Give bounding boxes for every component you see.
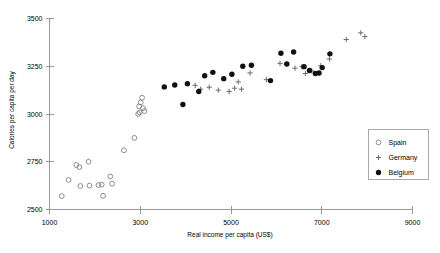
x-tick-label-7000: 7000	[314, 219, 330, 226]
point-belgium-13	[284, 61, 289, 66]
legend-label-germany: Germany	[389, 154, 418, 162]
series-germany	[193, 30, 368, 94]
point-spain-6	[87, 183, 92, 188]
legend-label-spain: Spain	[389, 139, 407, 147]
point-belgium-10	[249, 63, 254, 68]
point-spain-11	[110, 181, 115, 186]
x-tick-label-9000: 9000	[405, 219, 421, 226]
point-spain-18	[140, 95, 145, 100]
y-tick-label-2500: 2500	[27, 206, 43, 213]
x-tick-label-1000: 1000	[42, 219, 58, 226]
series-spain	[59, 95, 146, 198]
point-germany-7	[239, 87, 244, 92]
point-belgium-6	[210, 70, 215, 75]
point-spain-13	[132, 135, 137, 140]
point-belgium-9	[240, 64, 245, 69]
point-belgium-11	[268, 78, 273, 83]
point-belgium-14	[291, 49, 296, 54]
point-germany-10	[277, 61, 282, 66]
y-tick-labels: 25002750300032503500	[27, 15, 43, 213]
y-tick-label-3500: 3500	[27, 15, 43, 22]
point-spain-0	[59, 194, 64, 199]
legend-label-belgium: Belgium	[389, 169, 414, 177]
point-belgium-5	[202, 73, 207, 78]
point-belgium-18	[316, 70, 321, 75]
point-germany-12	[292, 66, 297, 71]
point-belgium-19	[320, 65, 325, 70]
point-germany-3	[216, 88, 221, 93]
y-tick-label-2750: 2750	[27, 158, 43, 165]
point-germany-0	[193, 83, 198, 88]
data-points	[59, 30, 367, 198]
x-tick-label-5000: 5000	[223, 219, 239, 226]
point-belgium-7	[221, 76, 226, 81]
y-tick-label-3000: 3000	[27, 111, 43, 118]
point-germany-4	[227, 89, 232, 94]
x-axis-title: Real income per capita (US$)	[187, 231, 272, 239]
point-belgium-3	[185, 81, 190, 86]
x-tick-labels: 10003000500070009000	[42, 219, 421, 226]
point-spain-4	[78, 184, 83, 189]
y-tick-label-3250: 3250	[27, 63, 43, 70]
point-belgium-12	[278, 51, 283, 56]
axes	[50, 19, 413, 210]
point-spain-10	[108, 174, 113, 179]
plot-canvas: 10003000500070009000 2500275030003250350…	[0, 0, 440, 253]
point-spain-1	[66, 177, 71, 182]
series-belgium	[162, 49, 333, 107]
point-spain-12	[122, 148, 127, 153]
point-germany-5	[232, 86, 237, 91]
x-tick-label-3000: 3000	[132, 219, 148, 226]
legend: SpainGermanyBelgium	[369, 130, 429, 180]
point-germany-18	[344, 37, 349, 42]
point-germany-19	[358, 30, 363, 35]
point-germany-20	[362, 34, 367, 39]
legend-marker-belgium	[376, 170, 381, 175]
point-germany-6	[236, 79, 241, 84]
point-spain-9	[101, 193, 106, 198]
point-belgium-20	[327, 51, 332, 56]
point-spain-8	[99, 182, 104, 187]
y-axis-title: Calories per capita per day	[8, 70, 16, 148]
point-belgium-15	[301, 64, 306, 69]
point-belgium-4	[196, 89, 201, 94]
scatter-chart: 10003000500070009000 2500275030003250350…	[0, 0, 440, 253]
point-belgium-16	[307, 68, 312, 73]
point-belgium-1	[172, 82, 177, 87]
point-belgium-8	[229, 72, 234, 77]
point-germany-8	[247, 70, 252, 75]
point-belgium-0	[162, 84, 167, 89]
point-germany-17	[327, 56, 332, 61]
point-belgium-2	[180, 102, 185, 107]
point-germany-2	[207, 85, 212, 90]
point-spain-5	[86, 159, 91, 164]
